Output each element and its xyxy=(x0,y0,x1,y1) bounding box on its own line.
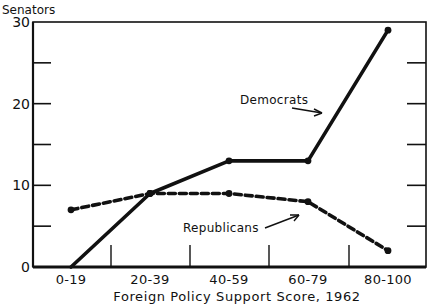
data-point xyxy=(68,206,75,213)
x-tick-label: 0-19 xyxy=(56,272,87,287)
x-tick-label: 80-100 xyxy=(364,272,412,287)
data-point xyxy=(385,247,392,254)
y-axis-title: Senators xyxy=(2,3,55,17)
x-axis-title: Foreign Policy Support Score, 1962 xyxy=(113,289,360,304)
x-tick-label: 40-59 xyxy=(209,272,248,287)
y-tick-label: 10 xyxy=(12,177,30,193)
data-point xyxy=(385,27,392,34)
y-tick-label: 0 xyxy=(21,259,30,275)
data-point xyxy=(226,157,233,164)
data-point xyxy=(226,190,233,197)
line-chart-svg: 0102030 0-1920-3940-5960-7980-100 Senato… xyxy=(0,0,436,307)
x-tick-label: 60-79 xyxy=(288,272,327,287)
data-point xyxy=(305,198,312,205)
republicans-annotation-label: Republicans xyxy=(183,221,259,235)
chart: 0102030 0-1920-3940-5960-7980-100 Senato… xyxy=(0,0,436,307)
data-point xyxy=(305,157,312,164)
x-tick-label: 20-39 xyxy=(130,272,169,287)
y-tick-label: 20 xyxy=(12,96,30,112)
democrats-arrow-icon xyxy=(292,108,322,116)
republicans-arrow-icon xyxy=(265,215,299,228)
data-point xyxy=(147,190,154,197)
democrats-annotation-label: Democrats xyxy=(240,93,308,107)
